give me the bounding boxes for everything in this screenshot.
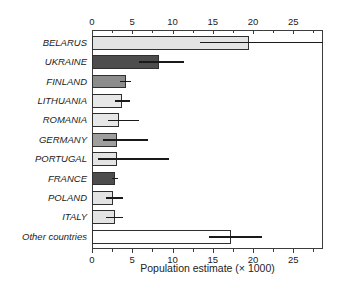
category-label: GERMANY bbox=[0, 134, 87, 146]
error-bar bbox=[115, 100, 130, 102]
x-axis-major-tick-bottom bbox=[293, 249, 294, 253]
population-estimate-bar-chart: Population estimate (× 1000) BELARUSUKRA… bbox=[0, 0, 340, 289]
x-axis-minor-tick-bottom bbox=[193, 249, 194, 252]
category-label: UKRAINE bbox=[0, 56, 87, 68]
category-label: FRANCE bbox=[0, 173, 87, 185]
category-label: PORTUGAL bbox=[0, 153, 87, 165]
x-axis-major-tick-bottom bbox=[132, 249, 133, 253]
x-axis-minor-tick-top bbox=[233, 30, 234, 33]
error-bar bbox=[120, 81, 131, 83]
x-axis-major-tick-top bbox=[132, 30, 133, 34]
x-axis-tick-label-top: 0 bbox=[89, 16, 94, 27]
x-axis-minor-tick-bottom bbox=[313, 249, 314, 252]
error-bar bbox=[200, 42, 323, 44]
error-bar bbox=[108, 120, 139, 122]
x-axis-minor-tick-bottom bbox=[112, 249, 113, 252]
x-axis-tick-label-top: 20 bbox=[248, 16, 259, 27]
error-bar bbox=[106, 197, 123, 199]
category-label: POLAND bbox=[0, 192, 87, 204]
x-axis-major-tick-bottom bbox=[253, 249, 254, 253]
x-axis-minor-tick-top bbox=[112, 30, 113, 33]
x-axis-tick-label-top: 25 bbox=[288, 16, 299, 27]
category-label: LITHUANIA bbox=[0, 95, 87, 107]
error-bar bbox=[209, 236, 262, 238]
x-axis-tick-label-bottom: 15 bbox=[207, 254, 218, 265]
x-axis-major-tick-bottom bbox=[173, 249, 174, 253]
x-axis-major-tick-top bbox=[253, 30, 254, 34]
x-axis-minor-tick-top bbox=[152, 30, 153, 33]
x-axis-major-tick-top bbox=[293, 30, 294, 34]
error-bar bbox=[139, 61, 184, 63]
x-axis-tick-label-top: 10 bbox=[167, 16, 178, 27]
error-bar bbox=[106, 217, 123, 219]
category-label: BELARUS bbox=[0, 37, 87, 49]
category-label: Other countries bbox=[0, 231, 87, 243]
x-axis-tick-label-bottom: 5 bbox=[130, 254, 135, 265]
x-axis-major-tick-bottom bbox=[213, 249, 214, 253]
x-axis-tick-label-bottom: 25 bbox=[288, 254, 299, 265]
x-axis-major-tick-top bbox=[173, 30, 174, 34]
error-bar bbox=[112, 178, 118, 180]
x-axis-major-tick-top bbox=[92, 30, 93, 34]
x-axis-minor-tick-bottom bbox=[152, 249, 153, 252]
x-axis-minor-tick-top bbox=[313, 30, 314, 33]
error-bar bbox=[98, 158, 169, 160]
x-axis-tick-label-top: 15 bbox=[207, 16, 218, 27]
x-axis-tick-label-bottom: 20 bbox=[248, 254, 259, 265]
x-axis-tick-label-bottom: 10 bbox=[167, 254, 178, 265]
error-bar bbox=[103, 139, 148, 141]
category-label: ROMANIA bbox=[0, 114, 87, 126]
x-axis-tick-label-bottom: 0 bbox=[89, 254, 94, 265]
category-label: ITALY bbox=[0, 211, 87, 223]
x-axis-major-tick-bottom bbox=[92, 249, 93, 253]
x-axis-minor-tick-bottom bbox=[233, 249, 234, 252]
category-label: FINLAND bbox=[0, 76, 87, 88]
x-axis-minor-tick-top bbox=[193, 30, 194, 33]
x-axis-tick-label-top: 5 bbox=[130, 16, 135, 27]
x-axis-minor-tick-bottom bbox=[273, 249, 274, 252]
x-axis-minor-tick-top bbox=[273, 30, 274, 33]
x-axis-major-tick-top bbox=[213, 30, 214, 34]
